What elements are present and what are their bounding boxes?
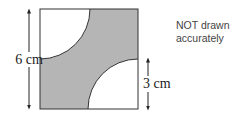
shaded-region [40, 9, 138, 109]
diagram: 6 cm 3 cm NOT drawn accurately [0, 0, 243, 114]
radius-label: 3 cm [143, 76, 171, 91]
note-line-1: NOT drawn [176, 19, 230, 31]
note-line-2: accurately [176, 32, 225, 44]
side-length-label: 6 cm [15, 52, 43, 67]
